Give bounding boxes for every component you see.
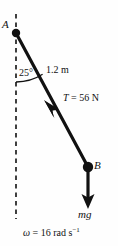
weight-label: mg bbox=[78, 209, 91, 220]
physics-diagram: A B 25° 1.2 m T = 56 N mg ω = 16 rad s−1 bbox=[0, 0, 118, 246]
omega-value-text: = 16 rad s bbox=[30, 227, 72, 238]
omega-exponent: −1 bbox=[72, 226, 79, 234]
diagram-canvas bbox=[0, 0, 118, 246]
bob-point bbox=[83, 162, 93, 172]
string-length-label: 1.2 m bbox=[46, 65, 69, 75]
pivot-label-a: A bbox=[2, 19, 9, 30]
angle-label: 25° bbox=[19, 68, 33, 78]
pivot-point bbox=[12, 29, 20, 37]
tension-value-text: = 56 N bbox=[69, 92, 99, 103]
tension-arrow-barb bbox=[45, 101, 59, 119]
tension-label: T = 56 N bbox=[63, 93, 99, 103]
omega-symbol: ω bbox=[23, 227, 30, 238]
bob-label-b: B bbox=[94, 160, 101, 171]
angular-speed-label: ω = 16 rad s−1 bbox=[23, 228, 80, 238]
